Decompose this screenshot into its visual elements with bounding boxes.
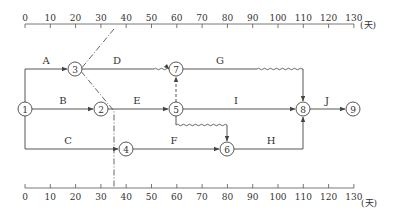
top-axis-tick-label: 80 [222,13,234,23]
top-axis-tick-label: 120 [320,13,337,23]
svg-text:4: 4 [123,145,129,155]
activity-C: C [25,116,118,149]
node-6: 6 [220,142,234,156]
top-axis-tick-label: 20 [70,13,82,23]
bottom-axis-tick-label: 120 [320,192,337,202]
node-4: 4 [119,142,133,156]
svg-text:7: 7 [173,65,179,75]
node-1: 1 [18,102,32,116]
bottom-axis-tick-label: 10 [45,192,57,202]
svg-text:D: D [113,55,121,66]
bottom-axis-tick-label: 110 [295,192,312,202]
svg-text:E: E [133,95,140,106]
svg-text:8: 8 [300,105,306,115]
bottom-axis-tick-label: 70 [196,192,208,202]
node-3: 3 [68,62,82,76]
node-2: 2 [94,102,108,116]
bottom-axis-tick-label: 60 [171,192,183,202]
bottom-axis-tick-label: 30 [95,192,107,202]
activity-B: B [32,95,93,109]
top-axis-tick-label: 70 [196,13,208,23]
time-scaled-network-diagram: 0102030405060708090100110120130 (天) 0102… [0,0,398,220]
svg-text:1: 1 [22,105,28,115]
svg-text:B: B [59,95,66,106]
dummy-5-to-6 [176,116,227,141]
svg-text:C: C [64,135,72,146]
bottom-axis-tick-label: 40 [120,192,132,202]
svg-text:9: 9 [350,105,356,115]
activity-G: G [183,55,303,101]
top-axis-tick-label: 0 [22,13,28,23]
top-axis-tick-label: 90 [247,13,259,23]
top-time-axis: 0102030405060708090100110120130 (天) [22,13,376,30]
svg-text:F: F [171,135,178,146]
top-axis-tick-label: 100 [269,13,286,23]
bottom-time-axis: 0102030405060708090100110120130 (天) [22,184,377,208]
bottom-axis-tick-label: 0 [22,192,28,202]
bottom-axis-tick-label: 20 [70,192,82,202]
activity-F: F [133,135,219,149]
svg-text:G: G [216,55,224,66]
top-axis-tick-label: 110 [295,13,312,23]
top-axis-tick-label: 60 [171,13,183,23]
activity-H: H [234,117,303,149]
node-5: 5 [169,102,183,116]
bottom-axis-tick-label: 50 [146,192,158,202]
top-axis-tick-label: 50 [146,13,158,23]
svg-text:6: 6 [224,145,230,155]
top-axis-tick-label: 30 [95,13,107,23]
bottom-axis-tick-label: 100 [269,192,286,202]
top-axis-tick-label: 40 [120,13,132,23]
svg-text:J: J [324,95,329,106]
top-axis-unit: (天) [360,20,376,30]
svg-text:A: A [41,55,50,66]
activity-I: I [183,95,295,109]
top-axis-tick-label: 10 [45,13,57,23]
node-9: 9 [346,102,360,116]
svg-text:3: 3 [72,65,78,75]
node-8: 8 [296,102,310,116]
node-7: 7 [169,62,183,76]
svg-text:I: I [234,95,238,106]
activity-E: E [108,95,168,109]
svg-text:2: 2 [98,105,104,115]
activity-D: D [82,55,169,70]
bottom-axis-tick-label: 80 [222,192,234,202]
activity-J: J [310,95,345,109]
bottom-axis-tick-label: 90 [247,192,259,202]
svg-text:5: 5 [173,105,179,115]
svg-text:H: H [267,135,276,146]
bottom-axis-unit: (天) [361,198,377,208]
